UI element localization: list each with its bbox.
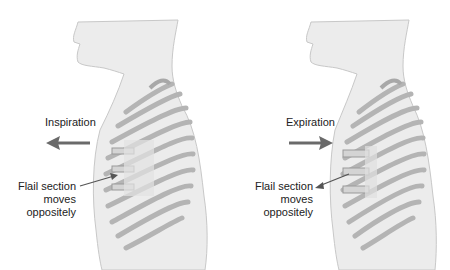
flail-caption: Flail section moves oppositely xyxy=(8,180,76,219)
flail-caption-line: oppositely xyxy=(8,206,76,219)
torso-illustration xyxy=(0,0,225,270)
flail-segment xyxy=(343,146,377,198)
flail-caption-line: Flail section xyxy=(8,180,76,193)
phase-label: Inspiration xyxy=(45,116,96,129)
flail-caption-line: Flail section xyxy=(245,180,313,193)
inspiration-panel: Inspiration Flail section moves opposite… xyxy=(0,0,225,270)
flail-segment xyxy=(112,140,154,196)
flail-caption-line: moves xyxy=(8,193,76,206)
flail-caption-line: moves xyxy=(245,193,313,206)
phase-label: Expiration xyxy=(286,116,335,129)
inspiration-arrow-icon xyxy=(46,136,90,150)
flail-caption-line: oppositely xyxy=(245,206,313,219)
expiration-arrow-icon xyxy=(289,136,333,150)
expiration-panel: Expiration Flail section moves oppositel… xyxy=(225,0,450,270)
flail-caption: Flail section moves oppositely xyxy=(245,180,313,219)
torso-illustration xyxy=(225,0,450,270)
